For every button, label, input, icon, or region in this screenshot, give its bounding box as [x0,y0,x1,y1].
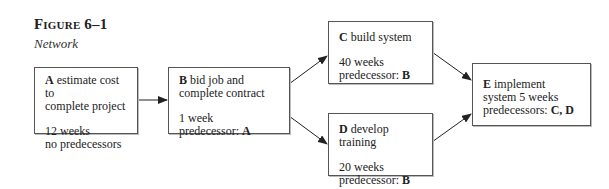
edge-b-c [289,56,327,84]
node-a-id: A [45,73,54,87]
node-b-id: B [179,73,187,87]
node-e-pred-prefix: predecessors: [483,103,551,117]
node-b-label: bid job and [190,73,244,87]
node-c-pred-prefix: predecessor: [339,68,402,82]
node-a: A estimate cost to complete project 12 w… [34,67,138,134]
node-a-label2: complete project [45,100,127,113]
node-a-pred-prefix: no predecessors [45,137,121,151]
edge-d-e [432,114,471,142]
node-e-label: implement [494,77,545,91]
node-b-label2: complete contract [179,87,279,100]
node-e-id: E [483,77,491,91]
node-c-pred: B [402,68,410,82]
node-b: B bid job and complete contract 1 week p… [168,67,290,134]
node-d-pred-prefix: predecessor: [339,173,402,187]
node-c-id: C [339,30,348,44]
node-d-pred: B [402,173,410,187]
node-c-label: build system [351,30,412,44]
node-a-label: estimate cost to [45,73,119,100]
node-c: C build system 40 weeks predecessor: B [328,21,433,84]
edge-b-d [289,116,327,144]
node-d-id: D [339,122,348,136]
node-b-pred-prefix: predecessor: [179,124,242,138]
node-d: D develop training 20 weeks predecessor:… [328,113,433,176]
node-e: E implement system 5 weeks predecessors:… [472,63,591,126]
edge-c-e [432,52,471,80]
node-e-pred: C, D [551,103,574,117]
node-b-pred: A [242,124,251,138]
